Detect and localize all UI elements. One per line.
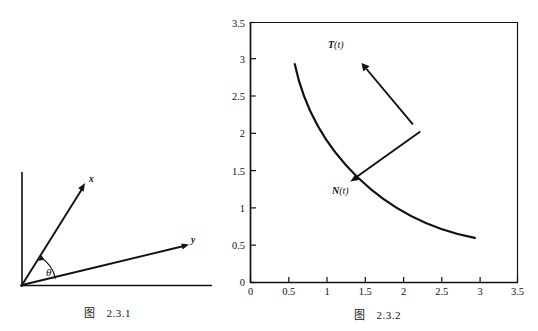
x-tick-label-3: 3 — [477, 286, 482, 297]
y-tick-label-2: 2 — [240, 128, 245, 139]
x-tick-label-1-5: 1.5 — [359, 286, 372, 297]
x-tick-label-2-5: 2.5 — [435, 286, 448, 297]
x-tick-label-0: 0 — [248, 286, 253, 297]
y-tick-label-0: 0 — [240, 277, 245, 288]
tangent-vector-label: T(t) — [328, 39, 344, 51]
caption-number-left: 2.3.1 — [107, 307, 132, 319]
caption-prefix-left: 图 — [84, 307, 96, 319]
caption-prefix-right: 图 — [354, 309, 366, 321]
normal-label-arg: (t) — [339, 185, 349, 197]
y-tick-label-3-5: 3.5 — [232, 18, 245, 29]
x-vector — [22, 183, 85, 285]
caption-figure-2-3-1: 图2.3.1 — [84, 304, 131, 320]
normal-vector-label: N(t) — [331, 185, 349, 197]
x-tick-label-1: 1 — [324, 286, 329, 297]
caption-figure-2-3-2: 图2.3.2 — [354, 306, 401, 322]
y-tick-label-0-5: 0.5 — [232, 240, 245, 251]
x-tick-label-2: 2 — [401, 286, 406, 297]
tangent-label-arg: (t) — [334, 39, 344, 51]
plot-frame — [250, 22, 518, 283]
tangent-vector — [362, 63, 413, 124]
x-tick-label-0-5: 0.5 — [282, 286, 295, 297]
figure-2-3-1-canvas: x y θ — [0, 0, 230, 331]
x-tick-label-3-5: 3.5 — [511, 286, 524, 297]
x-vector-label: x — [88, 174, 94, 184]
y-tick-label-3: 3 — [240, 54, 245, 65]
y-tick-label-2-5: 2.5 — [232, 91, 245, 102]
figure-2-3-2-canvas: 0 0.5 1 1.5 2 2.5 3 3.5 0 0.5 1 1.5 2 2.… — [200, 0, 538, 331]
y-vector — [22, 244, 189, 286]
y-tick-label-1-5: 1.5 — [232, 166, 245, 177]
y-vector-label: y — [190, 235, 196, 245]
normal-vector — [350, 132, 420, 182]
theta-label: θ — [46, 266, 52, 278]
figure-2-3-1: x y θ — [0, 0, 230, 331]
y-tick-label-1: 1 — [240, 203, 245, 214]
caption-number-right: 2.3.2 — [377, 309, 402, 321]
figure-2-3-2: 0 0.5 1 1.5 2 2.5 3 3.5 0 0.5 1 1.5 2 2.… — [200, 0, 538, 331]
